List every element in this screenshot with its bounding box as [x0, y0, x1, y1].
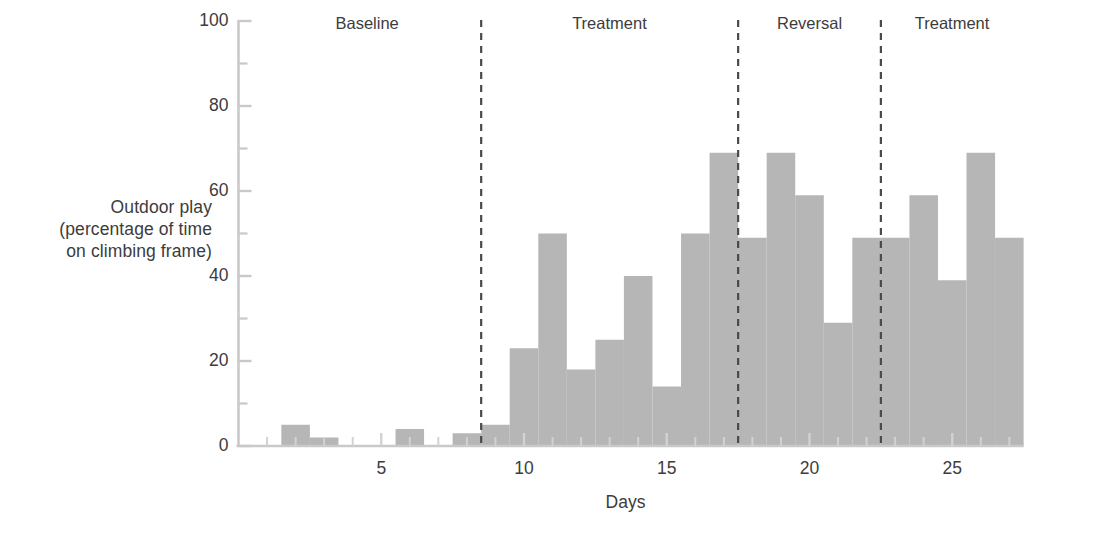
bar — [938, 280, 967, 446]
bar — [738, 238, 767, 446]
y-tick-label: 60 — [185, 180, 229, 201]
bar — [595, 340, 624, 446]
bar — [909, 195, 938, 446]
bar — [681, 234, 710, 447]
phase-label: Treatment — [915, 14, 990, 33]
bar — [710, 153, 739, 446]
y-tick-label: 80 — [185, 95, 229, 116]
phase-label: Baseline — [335, 14, 398, 33]
bar — [995, 238, 1024, 446]
bar-group — [281, 153, 1023, 446]
x-axis-label: Days — [0, 492, 1095, 513]
x-tick-label: 5 — [356, 458, 406, 479]
y-axis-label-line-2: (percentage of time — [0, 218, 212, 240]
x-tick-label: 20 — [785, 458, 835, 479]
bar — [881, 238, 910, 446]
x-tick-label: 25 — [927, 458, 977, 479]
x-tick-label: 10 — [499, 458, 549, 479]
bar — [567, 370, 596, 447]
x-tick-label: 15 — [642, 458, 692, 479]
bar — [967, 153, 996, 446]
chart-figure: Outdoor play (percentage of time on clim… — [0, 0, 1095, 538]
y-tick-label: 20 — [185, 350, 229, 371]
y-axis-label-line-3: on climbing frame) — [0, 240, 212, 262]
y-tick-label: 0 — [185, 435, 229, 456]
bar — [538, 234, 567, 447]
y-axis-label-line-1: Outdoor play — [0, 196, 212, 218]
y-tick-label: 100 — [185, 10, 229, 31]
bar — [852, 238, 881, 446]
phase-label: Treatment — [572, 14, 647, 33]
bar — [824, 323, 853, 446]
bar — [767, 153, 796, 446]
y-tick-label: 40 — [185, 265, 229, 286]
bar — [510, 348, 539, 446]
y-axis-label: Outdoor play (percentage of time on clim… — [0, 196, 212, 262]
bar — [624, 276, 653, 446]
x-axis-label-text: Days — [606, 492, 646, 512]
bar — [795, 195, 824, 446]
phase-label: Reversal — [777, 14, 842, 33]
